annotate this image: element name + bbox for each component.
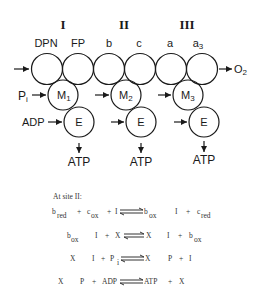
- equilibrium-arrow-4: [120, 278, 143, 285]
- equation-2: b ox I + X X I + b ox: [67, 231, 202, 244]
- m3-label: M3: [181, 89, 195, 103]
- svg-text:X: X: [145, 254, 151, 263]
- m1-label: M1: [57, 89, 71, 103]
- svg-text:red: red: [57, 211, 67, 220]
- svg-text:I: I: [95, 231, 98, 240]
- site-label-1: I: [60, 17, 65, 32]
- svg-text:b: b: [189, 231, 193, 240]
- svg-text:ox: ox: [194, 235, 202, 244]
- svg-text:I: I: [175, 207, 178, 216]
- atp-label-1: ATP: [68, 155, 90, 169]
- svg-text:I: I: [167, 231, 170, 240]
- carrier-label-fp: FP: [71, 37, 85, 49]
- e2-label: E: [137, 116, 144, 128]
- svg-text:X: X: [70, 254, 76, 263]
- atp-label-3: ATP: [193, 153, 215, 167]
- equation-4: X P + ADP ATP + X: [58, 277, 185, 286]
- svg-text:I: I: [189, 254, 192, 263]
- svg-text:b: b: [52, 207, 56, 216]
- pi-label: Pi: [18, 89, 28, 104]
- svg-text:I: I: [92, 254, 95, 263]
- site-label-2: II: [119, 17, 129, 32]
- equations-heading: At site II:: [53, 192, 82, 201]
- atp-label-2: ATP: [130, 155, 152, 169]
- svg-text:+: +: [92, 277, 96, 286]
- svg-text:I: I: [115, 207, 118, 216]
- equilibrium-arrow-1: [120, 208, 143, 215]
- m2-label: M2: [119, 89, 133, 103]
- svg-text:red: red: [201, 211, 211, 220]
- equilibrium-arrow-3: [121, 255, 144, 262]
- carrier-circle-dpn: [32, 54, 63, 85]
- svg-text:ox: ox: [149, 211, 157, 220]
- svg-text:ox: ox: [71, 235, 79, 244]
- svg-text:+: +: [178, 231, 182, 240]
- carrier-circle-fp: [63, 54, 94, 85]
- site-label-3: III: [179, 17, 194, 32]
- adp-label: ADP: [22, 116, 45, 128]
- svg-text:P: P: [110, 254, 114, 263]
- svg-text:ATP: ATP: [144, 277, 157, 286]
- svg-text:ox: ox: [91, 211, 99, 220]
- carrier-circle-a: [156, 54, 187, 85]
- svg-text:i: i: [117, 258, 119, 267]
- carrier-label-a3: a3: [193, 37, 204, 51]
- svg-text:+: +: [107, 207, 111, 216]
- svg-text:+: +: [101, 254, 105, 263]
- svg-text:P: P: [168, 254, 172, 263]
- carrier-circle-b: [94, 54, 125, 85]
- svg-text:+: +: [105, 231, 109, 240]
- equilibrium-arrow-2: [124, 232, 144, 239]
- svg-text:X: X: [58, 277, 64, 286]
- carrier-label-dpn: DPN: [34, 37, 57, 49]
- svg-text:X: X: [115, 231, 121, 240]
- svg-text:ADP: ADP: [102, 277, 117, 286]
- e1-label: E: [75, 116, 82, 128]
- carrier-label-c: c: [136, 37, 142, 49]
- svg-text:b: b: [144, 207, 148, 216]
- svg-text:+: +: [186, 207, 190, 216]
- oxygen-label: O2: [234, 63, 248, 77]
- svg-text:+: +: [168, 277, 172, 286]
- oxidative-phosphorylation-diagram: I II III DPN FP b c a a3 O2 M1 M2 M3 Pi …: [0, 0, 261, 294]
- svg-text:P: P: [80, 277, 84, 286]
- svg-text:+: +: [77, 207, 81, 216]
- e3-label: E: [200, 116, 207, 128]
- svg-text:X: X: [146, 231, 152, 240]
- svg-text:+: +: [179, 254, 183, 263]
- carrier-label-a: a: [167, 37, 174, 49]
- equation-1: b red + c ox + I b ox I + c red: [52, 207, 211, 220]
- equation-3: X I + P i X P + I: [70, 254, 192, 267]
- carrier-label-b: b: [106, 37, 112, 49]
- svg-text:X: X: [179, 277, 185, 286]
